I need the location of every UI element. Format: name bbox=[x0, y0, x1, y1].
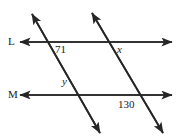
geometry-figure: L M 71 x y 130 bbox=[0, 0, 181, 140]
line-label-L: L bbox=[8, 36, 15, 47]
geometry-canvas bbox=[0, 0, 181, 140]
angle-label-y: y bbox=[62, 76, 67, 87]
transversal-left-arrow-down bbox=[32, 14, 100, 133]
line-label-M: M bbox=[8, 89, 18, 100]
angle-label-x: x bbox=[117, 44, 122, 55]
angle-label-71: 71 bbox=[55, 44, 66, 55]
angle-label-130: 130 bbox=[118, 99, 135, 110]
transversal-right-arrow-down bbox=[92, 13, 163, 133]
